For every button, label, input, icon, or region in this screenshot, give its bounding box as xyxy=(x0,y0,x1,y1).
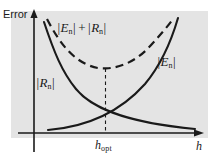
roundoff-error-label: |Rn| xyxy=(36,76,55,91)
axis-label-x: h xyxy=(196,140,202,152)
total-error-label: |En|+|Rn| xyxy=(57,21,107,36)
x-axis xyxy=(18,129,204,136)
truncation-subscript: n xyxy=(169,61,173,70)
error-plot-figure: Error h hopt |En|+|Rn| |En| |Rn| xyxy=(0,0,208,159)
abs-bar-close: | xyxy=(52,75,56,90)
total-term1-subscript: n xyxy=(69,27,73,36)
hopt-subscript: opt xyxy=(101,144,112,153)
axis-label-y: Error xyxy=(3,9,27,20)
truncation-variable: E xyxy=(161,54,169,69)
truncation-error-label: |En| xyxy=(157,55,176,70)
optimal-step-tick-label: hopt xyxy=(95,139,112,153)
total-term2-variable: R xyxy=(91,20,99,35)
abs-bar-close-2: | xyxy=(103,20,107,35)
abs-bar-close: | xyxy=(173,54,177,69)
roundoff-subscript: n xyxy=(48,82,52,91)
total-term1-variable: E xyxy=(61,20,69,35)
roundoff-variable: R xyxy=(40,75,48,90)
plus-operator: + xyxy=(76,20,87,35)
